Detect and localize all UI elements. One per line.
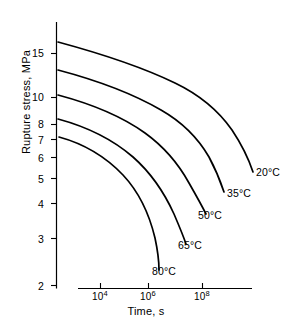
curve-group [58,42,253,270]
x-tick-exponent: 4 [104,289,108,298]
curve-65c [58,119,186,244]
x-tick-base: 10 [140,291,152,302]
y-tick-label-5: 5 [14,173,44,185]
y-tick-label-3: 3 [14,233,44,245]
x-tick-label-1e8: 108 [194,291,210,302]
curve-80c [59,137,159,270]
y-axis-title: Rupture stress, MPa [20,32,32,172]
x-tick-label-1e6: 106 [140,291,156,302]
x-tick-exponent: 6 [152,289,156,298]
x-tick-base: 10 [92,291,104,302]
axis-lines [57,22,253,289]
curve-label-80c: 80°C [152,265,176,277]
y-tick-label-2: 2 [14,280,44,292]
curve-label-20c: 20°C [256,166,280,178]
curve-label-65c: 65°C [178,239,202,251]
curve-50c [58,95,206,214]
curve-label-50c: 50°C [198,209,222,221]
x-tick-base: 10 [194,291,206,302]
x-tick-exponent: 8 [206,289,210,298]
y-tick-label-4: 4 [14,198,44,210]
rupture-stress-chart: 15 10 8 7 6 5 4 3 2 104 106 108 Rupture … [0,0,292,325]
x-axis-title: Time, s [0,305,292,317]
curve-label-35c: 35°C [227,187,251,199]
x-tick-label-1e4: 104 [92,291,108,302]
